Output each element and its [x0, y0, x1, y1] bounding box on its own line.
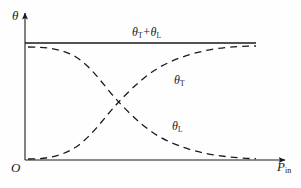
theta-t-curve	[28, 46, 256, 159]
figure-container: θ Pin O θT+θL θT θL	[0, 0, 301, 188]
theta-t-label-subscript: T	[180, 79, 185, 88]
sum-curve-label: θT+θL	[132, 26, 161, 38]
theta-l-label-subscript: L	[178, 125, 183, 134]
sum-curve-theta-t-subscript: T	[138, 31, 143, 40]
sum-curve-theta-l-subscript: L	[156, 31, 161, 40]
theta-l-label: θL	[172, 120, 182, 132]
theta-l-curve	[28, 47, 256, 159]
x-axis-label: Pin	[277, 160, 291, 173]
x-axis-label-subscript: in	[285, 166, 291, 175]
x-axis-label-base: P	[277, 159, 285, 174]
sum-curve-plus-sign: +	[142, 25, 150, 39]
theta-t-label: θT	[174, 74, 184, 86]
y-axis-label: θ	[12, 9, 18, 22]
origin-label: O	[11, 161, 20, 174]
